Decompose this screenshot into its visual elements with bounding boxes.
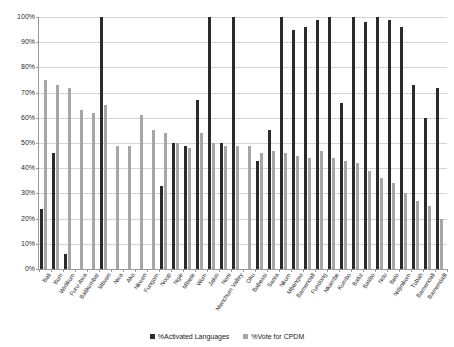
bar: [340, 103, 343, 269]
bar: [316, 20, 319, 269]
y-axis-tick-label: 90%: [21, 38, 35, 46]
bar: [428, 206, 431, 269]
bar: [104, 105, 107, 269]
plot-area: 0%10%20%30%40%50%60%70%80%90%100%: [38, 17, 447, 270]
bar: [224, 146, 227, 269]
bar-group: [219, 17, 231, 269]
x-axis-tick-label: Wum: [195, 272, 209, 287]
bar: [380, 178, 383, 269]
bar: [368, 171, 371, 269]
bar-group: [423, 17, 435, 269]
y-axis-tick-label: 10%: [21, 240, 35, 248]
bar: [436, 88, 439, 269]
bar: [404, 193, 407, 269]
bar: [100, 17, 103, 269]
bar-group: [411, 17, 423, 269]
bar-group: [159, 17, 171, 269]
bar-chart: 0%10%20%30%40%50%60%70%80%90%100% BaliBu…: [0, 0, 454, 347]
bar: [64, 254, 67, 269]
bar: [92, 113, 95, 269]
bar: [128, 146, 131, 269]
bar-group: [75, 17, 87, 269]
bar: [440, 219, 443, 269]
bar: [164, 133, 167, 269]
bar: [184, 146, 187, 269]
legend-swatch-icon: [243, 334, 248, 339]
bar: [284, 153, 287, 269]
bar-group: [339, 17, 351, 269]
bar-group: [243, 17, 255, 269]
bar: [52, 153, 55, 269]
bar: [356, 163, 359, 269]
bar: [44, 80, 47, 269]
bar: [424, 118, 427, 269]
y-axis-tick-label: 50%: [21, 139, 35, 147]
bar-group: [267, 17, 279, 269]
bar: [332, 158, 335, 269]
bar: [328, 17, 331, 269]
y-axis-tick-label: 70%: [21, 89, 35, 97]
bar-group: [195, 17, 207, 269]
bar: [236, 146, 239, 269]
bar: [176, 143, 179, 269]
bar: [116, 146, 119, 269]
bar: [140, 115, 143, 269]
bar: [376, 17, 379, 269]
bar: [196, 100, 199, 269]
bar-group: [87, 17, 99, 269]
bar: [392, 183, 395, 269]
bar: [188, 148, 191, 269]
bar-group: [147, 17, 159, 269]
bar-group: [279, 17, 291, 269]
bar: [248, 146, 251, 269]
legend-swatch-icon: [150, 334, 155, 339]
bar-group: [135, 17, 147, 269]
bar-group: [327, 17, 339, 269]
bar: [232, 17, 235, 269]
bar-group: [351, 17, 363, 269]
bar-group: [231, 17, 243, 269]
bar: [152, 130, 155, 269]
legend-label: %Vote for CPDM: [251, 333, 304, 340]
bar: [80, 110, 83, 269]
bar: [296, 156, 299, 269]
bar-group: [111, 17, 123, 269]
bar-group: [171, 17, 183, 269]
bar: [416, 201, 419, 269]
bar: [352, 17, 355, 269]
x-axis-tick-label: Santa: [266, 272, 281, 289]
bar: [268, 130, 271, 269]
bar: [280, 17, 283, 269]
bar: [68, 88, 71, 269]
bar-group: [207, 17, 219, 269]
bar-group: [387, 17, 399, 269]
bar: [212, 143, 215, 269]
bar: [292, 30, 295, 269]
x-axis-tick-label: Nwa: [112, 272, 125, 286]
bar-group: [303, 17, 315, 269]
legend-item-vote-cpdm: %Vote for CPDM: [243, 333, 304, 340]
chart-legend: %Activated Languages %Vote for CPDM: [0, 330, 454, 342]
bar: [256, 161, 259, 269]
bar: [172, 143, 175, 269]
bar-group: [51, 17, 63, 269]
x-axis-tick-label: Noop: [159, 272, 173, 288]
bar: [308, 158, 311, 269]
bar: [400, 27, 403, 269]
bar-group: [435, 17, 447, 269]
y-axis-tick-label: 100%: [17, 13, 35, 21]
y-axis-tick-label: 40%: [21, 164, 35, 172]
bar-group: [375, 17, 387, 269]
y-axis-tick-label: 0%: [25, 265, 35, 273]
bar-group: [99, 17, 111, 269]
bar: [388, 20, 391, 269]
bar-group: [315, 17, 327, 269]
y-axis-tick-label: 80%: [21, 63, 35, 71]
bar-group: [291, 17, 303, 269]
bar-group: [183, 17, 195, 269]
bar: [56, 85, 59, 269]
bar-group: [39, 17, 51, 269]
bar: [344, 161, 347, 269]
bar: [160, 186, 163, 269]
y-axis-tick-label: 30%: [21, 189, 35, 197]
